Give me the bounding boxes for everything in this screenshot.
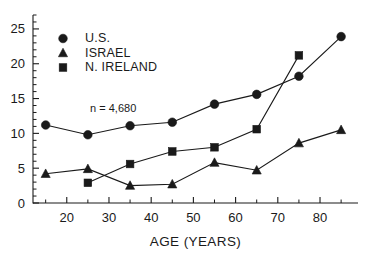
data-point-n-ireland: [295, 52, 303, 60]
data-point-u-s: [168, 118, 177, 127]
data-point-n-ireland: [84, 179, 92, 187]
x-axis-tick-label: 70: [271, 210, 285, 225]
y-axis-tick-label: 10: [11, 126, 25, 141]
data-point-n-ireland: [253, 125, 261, 133]
data-point-u-s: [84, 130, 93, 139]
x-axis-tick-label: 60: [228, 210, 242, 225]
legend-marker-circle: [59, 34, 68, 43]
data-point-n-ireland: [168, 148, 176, 156]
x-axis-tick-label: 50: [186, 210, 200, 225]
data-point-israel: [337, 125, 346, 134]
chart-container: 051015202520304050607080AGE (YEARS)U.S.I…: [0, 0, 373, 254]
y-axis-tick-label: 20: [11, 56, 25, 71]
data-point-israel: [210, 158, 219, 167]
x-axis-tick-label: 20: [60, 210, 74, 225]
y-axis-tick-label: 15: [11, 91, 25, 106]
data-point-n-ireland: [126, 160, 134, 168]
y-axis-tick-label: 5: [18, 161, 25, 176]
data-point-u-s: [295, 72, 304, 81]
legend-marker-square: [59, 64, 67, 72]
data-point-israel: [168, 179, 177, 188]
legend-label-n-ireland: N. IRELAND: [85, 60, 157, 74]
line-chart: 051015202520304050607080AGE (YEARS)U.S.I…: [0, 0, 373, 254]
x-axis-tick-label: 30: [102, 210, 116, 225]
data-point-u-s: [252, 90, 261, 99]
x-axis-tick-label: 40: [144, 210, 158, 225]
y-axis-tick-label: 0: [18, 196, 25, 211]
data-point-u-s: [210, 100, 219, 109]
data-point-n-ireland: [211, 143, 219, 151]
legend-label-u-s: U.S.: [85, 31, 110, 45]
legend-marker-triangle: [58, 48, 67, 57]
y-axis-tick-label: 25: [11, 21, 25, 36]
data-point-israel: [83, 164, 92, 173]
data-point-u-s: [337, 32, 346, 41]
data-point-u-s: [126, 121, 135, 130]
data-point-u-s: [41, 121, 50, 130]
x-axis-tick-label: 80: [313, 210, 327, 225]
legend-label-israel: ISRAEL: [85, 46, 131, 60]
sample-size-annotation: n = 4,680: [90, 102, 136, 114]
x-axis-title: AGE (YEARS): [150, 234, 241, 249]
